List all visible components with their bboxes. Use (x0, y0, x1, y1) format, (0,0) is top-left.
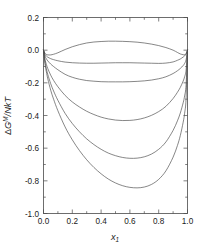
x-axis-title-subscript: 1 (116, 236, 120, 243)
y-axis-title-g: G (3, 122, 13, 129)
data-curve-3 (44, 50, 188, 82)
data-curve-5 (44, 50, 188, 158)
x-tick-label-0: 0.0 (38, 217, 50, 226)
y-tick-label-6: -1.0 (25, 210, 40, 219)
curves-group (44, 41, 188, 188)
chart-figure: 0.00.20.40.60.81.0 0.20.0-0.2-0.4-0.6-0.… (0, 0, 201, 247)
y-tick-label-1: 0.0 (28, 46, 40, 55)
plot-svg: 0.00.20.40.60.81.0 0.20.0-0.2-0.4-0.6-0.… (0, 0, 201, 247)
data-curve-2 (44, 50, 188, 63)
data-curve-6 (44, 50, 188, 188)
x-tick-label-1: 0.2 (67, 217, 79, 226)
y-axis-ticks (44, 18, 188, 214)
data-curve-1 (44, 41, 188, 55)
data-curve-4 (44, 50, 188, 120)
y-tick-label-5: -0.8 (25, 177, 40, 186)
x-tick-label-2: 0.4 (95, 217, 107, 226)
y-tick-label-2: -0.2 (25, 79, 40, 88)
y-tick-label-0: 0.2 (28, 14, 40, 23)
x-tick-label-5: 1.0 (182, 217, 194, 226)
x-axis-tick-labels: 0.00.20.40.60.81.0 (38, 217, 194, 226)
x-tick-label-4: 0.8 (153, 217, 165, 226)
x-axis-title: x1 (110, 232, 120, 243)
x-axis-ticks (44, 18, 188, 214)
y-tick-label-4: -0.6 (25, 144, 40, 153)
y-axis-tick-labels: 0.20.0-0.2-0.4-0.6-0.8-1.0 (25, 14, 40, 219)
y-axis-title: ΔGM/NkT (2, 96, 13, 135)
y-axis-title-rest: /NkT (3, 96, 13, 118)
plot-frame (44, 18, 188, 214)
y-tick-label-3: -0.4 (25, 112, 40, 121)
x-tick-label-3: 0.6 (124, 217, 136, 226)
